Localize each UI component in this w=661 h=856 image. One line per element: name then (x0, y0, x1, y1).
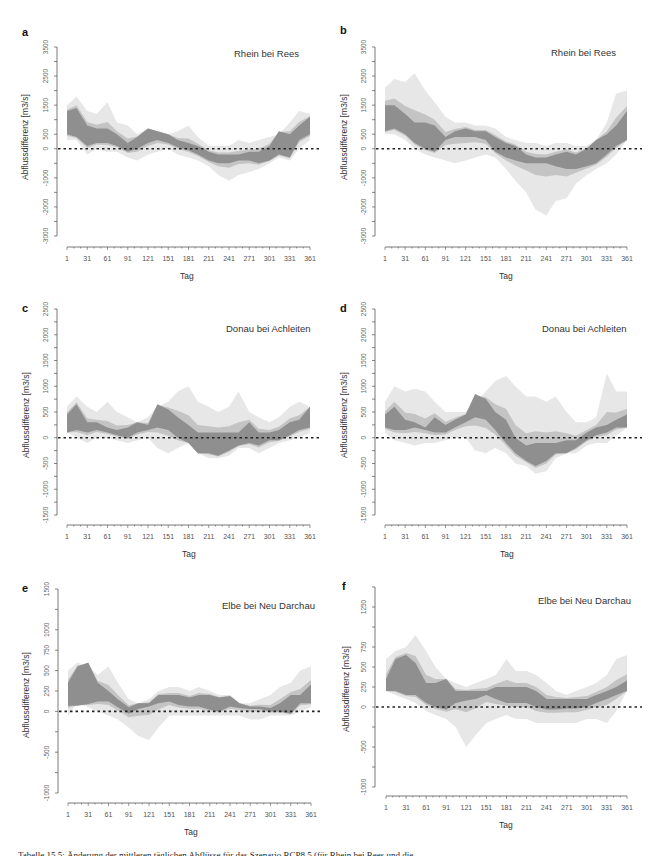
x-tick-label: 61 (421, 255, 429, 262)
x-tick-label: 181 (500, 255, 512, 262)
figure-caption: Tabelle 15.5: Änderung der mittleren täg… (18, 846, 658, 856)
x-tick-label: 151 (162, 533, 174, 540)
y-tick-label: -500 (360, 457, 367, 470)
x-tick-label: 31 (83, 255, 91, 262)
panel-d: 25002000150010005000-500-1000-1500131619… (330, 280, 660, 560)
y-tick-label: 1000 (360, 379, 367, 394)
y-axis-label: Abflussdifferenz [m3/s] (21, 652, 31, 738)
x-tick-label: 241 (224, 811, 236, 818)
y-tick-label: 750 (43, 644, 50, 655)
x-tick-label: 301 (265, 811, 277, 818)
y-tick-label: 1500 (43, 581, 50, 596)
panel-letter: f (342, 580, 346, 592)
x-tick-label: 331 (284, 533, 296, 540)
y-tick-label: 500 (360, 128, 367, 139)
x-tick-label: 211 (521, 533, 532, 540)
x-tick-label: 31 (83, 533, 91, 540)
y-tick-label: 2500 (360, 68, 367, 83)
y-axis-label: Abflussdifferenz [m3/s] (339, 372, 349, 458)
x-tick-label: 61 (104, 533, 112, 540)
x-tick-label: 331 (601, 255, 613, 262)
x-tick-label: 1 (383, 255, 387, 262)
y-tick-label: 0 (360, 705, 367, 709)
x-tick-label: 331 (601, 533, 613, 540)
x-tick-label: 181 (183, 255, 195, 262)
y-tick-label: -1000 (43, 784, 50, 801)
panel-letter: e (22, 582, 28, 594)
y-tick-label: 0 (42, 436, 49, 440)
y-tick-label: 500 (42, 128, 49, 139)
x-axis-label: Tag (182, 549, 196, 559)
y-tick-label: 2000 (42, 327, 49, 342)
y-tick-label: 1000 (42, 379, 49, 394)
panel-letter: b (340, 24, 347, 36)
y-tick-label: -500 (42, 457, 49, 470)
y-tick-label: 1000 (43, 622, 50, 637)
chart-plot-d: 25002000150010005000-500-1000-1500131619… (330, 280, 661, 560)
x-tick-label: 121 (460, 533, 472, 540)
x-tick-label: 61 (421, 533, 429, 540)
x-tick-label: 121 (143, 811, 155, 818)
y-tick-label: -1500 (42, 506, 49, 523)
x-tick-label: 1 (65, 533, 69, 540)
x-tick-label: 241 (540, 533, 552, 540)
y-tick-label: -1000 (42, 481, 49, 498)
y-tick-label: -3000 (360, 227, 367, 244)
y-tick-label: 500 (360, 406, 367, 417)
x-tick-label: 361 (621, 533, 633, 540)
y-tick-label: 2500 (42, 68, 49, 83)
x-tick-label: 1 (383, 533, 387, 540)
x-tick-label: 91 (125, 811, 133, 818)
panel-b: 3500250015005000-1000-2000-3000131619112… (330, 0, 660, 280)
y-tick-label: -1000 (360, 481, 367, 498)
y-tick-label: -2000 (42, 198, 49, 215)
x-tick-label: 181 (184, 811, 196, 818)
panel-letter: a (22, 26, 28, 38)
x-tick-label: 241 (540, 255, 552, 262)
y-tick-label: -500 (360, 740, 367, 753)
x-tick-label: 301 (264, 255, 276, 262)
x-tick-label: 331 (601, 804, 613, 811)
x-tick-label: 61 (422, 804, 430, 811)
x-tick-label: 151 (163, 811, 175, 818)
x-tick-label: 361 (304, 533, 316, 540)
panel-c: 25002000150010005000-500-1000-1500131619… (0, 280, 330, 560)
y-tick-label: 500 (42, 406, 49, 417)
x-axis-label: Tag (499, 820, 513, 830)
x-tick-label: 301 (264, 533, 276, 540)
y-axis-label: Abflussdifferenz [m3/s] (20, 94, 30, 180)
x-tick-label: 91 (442, 255, 450, 262)
x-tick-label: 151 (480, 533, 492, 540)
x-tick-label: 181 (183, 533, 195, 540)
x-tick-label: 31 (401, 255, 409, 262)
panel-letter: d (340, 302, 347, 314)
y-tick-label: -1000 (360, 169, 367, 186)
y-tick-label: 2500 (360, 301, 367, 316)
y-tick-label: -500 (43, 745, 50, 758)
x-tick-label: 31 (84, 811, 92, 818)
x-tick-label: 91 (442, 533, 450, 540)
x-tick-label: 121 (460, 804, 472, 811)
x-tick-label: 271 (243, 255, 255, 262)
x-tick-label: 1 (65, 255, 69, 262)
x-tick-label: 91 (124, 255, 132, 262)
x-tick-label: 151 (162, 255, 174, 262)
station-title: Rhein bei Rees (551, 47, 616, 58)
x-tick-label: 211 (204, 811, 215, 818)
y-tick-label: -1000 (42, 169, 49, 186)
y-tick-label: 250 (43, 685, 50, 696)
y-tick-label: 500 (360, 661, 367, 672)
x-tick-label: 211 (521, 255, 532, 262)
chart-plot-a: 3500250015005000-1000-2000-3000131619112… (0, 0, 330, 280)
x-tick-label: 1 (66, 811, 70, 818)
x-tick-label: 121 (460, 255, 472, 262)
x-tick-label: 91 (442, 804, 450, 811)
y-tick-label: -2000 (360, 198, 367, 215)
y-tick-label: 0 (360, 436, 367, 440)
x-tick-label: 31 (402, 804, 410, 811)
x-tick-label: 241 (223, 255, 235, 262)
x-tick-label: 211 (203, 533, 214, 540)
y-tick-label: 2000 (360, 327, 367, 342)
y-tick-label: -3000 (42, 227, 49, 244)
y-tick-label: 3500 (42, 39, 49, 54)
